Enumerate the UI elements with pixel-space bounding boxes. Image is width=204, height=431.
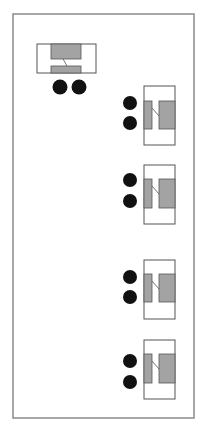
terminal-dot bbox=[123, 290, 137, 304]
component-pad bbox=[144, 354, 152, 383]
terminal-dot bbox=[123, 270, 137, 284]
component-pad bbox=[144, 179, 152, 208]
component-5 bbox=[123, 340, 175, 399]
components-group bbox=[37, 44, 175, 399]
terminal-dot bbox=[123, 116, 137, 130]
terminal-dot bbox=[123, 173, 137, 187]
component-pad bbox=[159, 274, 175, 302]
component-1 bbox=[37, 44, 96, 95]
component-2 bbox=[123, 86, 175, 145]
terminal-dot bbox=[123, 375, 137, 389]
component-pad bbox=[144, 274, 152, 302]
diagram-canvas bbox=[0, 0, 204, 431]
component-3 bbox=[123, 165, 175, 224]
terminal-dot bbox=[123, 354, 137, 368]
terminal-dot bbox=[123, 194, 137, 208]
component-pad bbox=[51, 44, 81, 59]
component-pad bbox=[159, 354, 175, 383]
terminal-dot bbox=[123, 96, 137, 110]
component-4 bbox=[123, 260, 175, 319]
terminal-dot bbox=[53, 80, 68, 95]
component-pad bbox=[51, 66, 81, 73]
component-pad bbox=[159, 101, 175, 129]
component-pad bbox=[144, 101, 152, 129]
component-pad bbox=[159, 179, 175, 208]
terminal-dot bbox=[72, 80, 87, 95]
